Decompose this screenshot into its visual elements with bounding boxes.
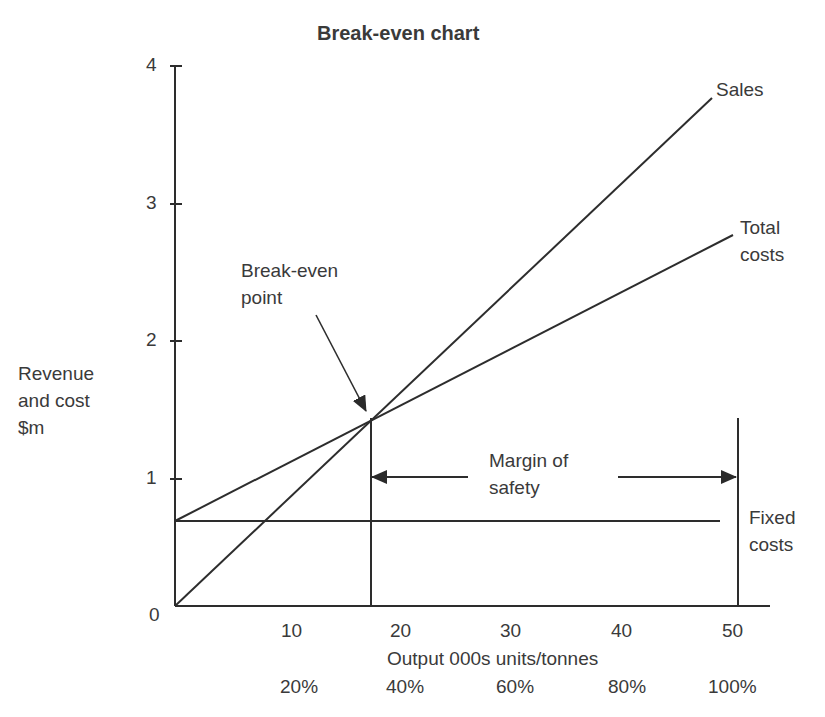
x-percent-label: 100% (708, 676, 757, 698)
total-costs-label-line2: costs (740, 243, 784, 266)
x-percent-label: 80% (608, 676, 646, 698)
y-tick-label: 0 (149, 604, 160, 626)
y-tick-label: 3 (146, 192, 157, 214)
y-tick-label: 4 (146, 54, 157, 76)
break-even-arrow (316, 315, 366, 411)
fixed-costs-label-line1: Fixed (749, 506, 795, 529)
x-tick-label: 10 (281, 620, 302, 642)
y-axis-label-line1: Revenue (18, 362, 94, 385)
x-tick-label: 20 (390, 620, 411, 642)
x-percent-label: 40% (386, 676, 424, 698)
y-axis-label-line2: and cost (18, 389, 90, 412)
fixed-costs-label-line2: costs (749, 533, 793, 556)
break-even-label-line1: Break-even (241, 259, 338, 282)
x-percent-label: 20% (280, 676, 318, 698)
x-percent-label: 60% (496, 676, 534, 698)
x-tick-label: 30 (500, 620, 521, 642)
margin-of-safety-label-line1: Margin of (489, 449, 568, 472)
sales-line (175, 98, 712, 606)
y-tick-label: 2 (146, 329, 157, 351)
x-tick-label: 50 (722, 620, 743, 642)
y-tick-label: 1 (146, 467, 157, 489)
x-tick-label: 40 (611, 620, 632, 642)
x-axis-label: Output 000s units/tonnes (387, 647, 598, 670)
break-even-label-line2: point (241, 286, 282, 309)
sales-label: Sales (716, 78, 764, 101)
y-axis-label-line3: $m (18, 416, 44, 439)
total-costs-label-line1: Total (740, 216, 780, 239)
chart-plot (0, 0, 825, 717)
margin-of-safety-label-line2: safety (489, 476, 540, 499)
